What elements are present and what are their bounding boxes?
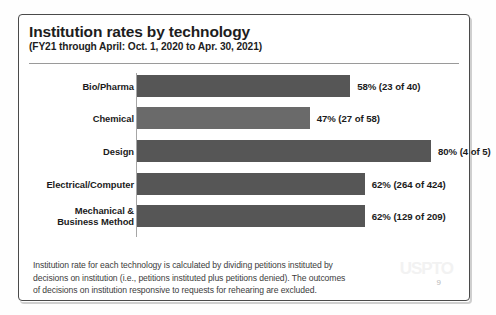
slide-frame: Institution rates by technology (FY21 th… [18,14,470,301]
chart-bar-value-label: 62% (129 of 209) [372,211,446,222]
chart-bar [137,75,350,97]
chart-category-label: Mechanical &Business Method [0,205,134,227]
slide-canvas: Institution rates by technology (FY21 th… [0,0,496,315]
chart-row: Design80% (4 of 5) [19,140,468,162]
header-divider [29,63,459,64]
chart-category-label-line1: Design [103,146,134,157]
footnote-line-1: Institution rate for each technology is … [33,259,425,272]
chart-category-label-line1: Chemical [93,113,134,124]
chart-row: Chemical47% (27 of 58) [19,107,468,129]
slide-header: Institution rates by technology (FY21 th… [29,23,459,53]
chart-category-label: Design [0,146,134,157]
chart-category-label: Chemical [0,113,134,124]
page-subtitle: (FY21 through April: Oct. 1, 2020 to Apr… [29,41,459,53]
page-title: Institution rates by technology [29,23,459,40]
chart-bar [137,140,431,162]
chart-category-label: Electrical/Computer [0,179,134,190]
watermark: USPTO [400,259,453,279]
chart-category-label-line1: Mechanical & [75,205,134,216]
chart-bar-value-label: 80% (4 of 5) [438,146,491,157]
chart-bar-group: 62% (264 of 424) [137,173,446,195]
chart-bar [137,107,310,129]
chart-bar-value-label: 62% (264 of 424) [372,179,446,190]
chart-category-label-line1: Bio/Pharma [82,81,134,92]
chart-category-label-line1: Electrical/Computer [46,179,134,190]
chart-row: Bio/Pharma58% (23 of 40) [19,75,468,97]
chart-footnote: Institution rate for each technology is … [33,259,425,297]
chart-bar [137,205,365,227]
chart-rows: Bio/Pharma58% (23 of 40)Chemical47% (27 … [19,71,468,239]
chart-bar [137,173,365,195]
bar-chart: Bio/Pharma58% (23 of 40)Chemical47% (27 … [19,71,468,239]
chart-bar-group: 58% (23 of 40) [137,75,420,97]
page-number: 9 [437,278,441,287]
footnote-line-3: of decisions on institution responsive t… [33,284,425,297]
chart-bar-value-label: 47% (27 of 58) [317,113,380,124]
chart-bar-group: 62% (129 of 209) [137,205,446,227]
chart-category-label-line2: Business Method [0,216,134,227]
chart-category-label: Bio/Pharma [0,81,134,92]
chart-row: Mechanical &Business Method62% (129 of 2… [19,205,468,227]
chart-bar-group: 80% (4 of 5) [137,140,491,162]
chart-row: Electrical/Computer62% (264 of 424) [19,173,468,195]
chart-bar-group: 47% (27 of 58) [137,107,380,129]
footnote-line-2: decisions on institution (i.e., petition… [33,272,425,285]
chart-bar-value-label: 58% (23 of 40) [357,81,420,92]
